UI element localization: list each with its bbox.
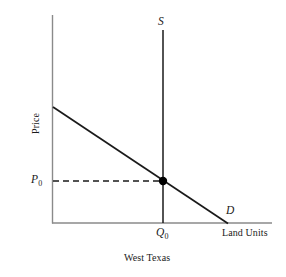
figure-caption: West Texas xyxy=(124,253,170,263)
demand-curve-line xyxy=(53,107,228,224)
supply-demand-figure: S D P0 Q0 Price Land Units West Texas xyxy=(0,0,286,277)
quantity-equilibrium-subscript: 0 xyxy=(165,232,169,241)
price-equilibrium-subscript: 0 xyxy=(38,179,42,188)
price-equilibrium-symbol: P xyxy=(31,173,38,185)
equilibrium-point-marker xyxy=(159,177,167,185)
x-axis-title: Land Units xyxy=(222,228,268,238)
quantity-equilibrium-symbol: Q xyxy=(156,226,164,238)
price-equilibrium-label: P0 xyxy=(31,174,42,186)
demand-curve-label: D xyxy=(226,205,234,217)
supply-curve-label: S xyxy=(158,16,164,28)
y-axis-title: Price xyxy=(31,113,41,134)
quantity-equilibrium-label: Q0 xyxy=(156,227,168,239)
